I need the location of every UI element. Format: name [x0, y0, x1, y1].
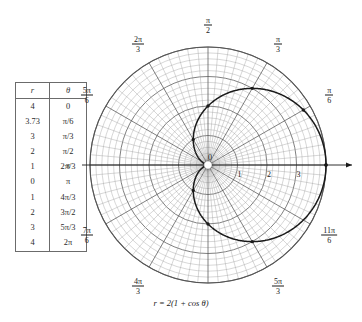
- polar-axis-arrowhead: [346, 162, 352, 167]
- radial-tick-label-2: 2: [267, 170, 271, 179]
- data-point: [192, 189, 195, 192]
- angle-label-denominator: 6: [325, 95, 333, 105]
- angle-label-numerator: 2π: [132, 34, 144, 43]
- angle-label-76: 7π6: [81, 226, 93, 245]
- data-point: [251, 240, 254, 243]
- angle-label-denominator: 6: [81, 95, 93, 105]
- angle-label-2: π2: [204, 16, 212, 35]
- angle-label-denominator: 6: [81, 235, 93, 245]
- angle-label-: π: [66, 161, 70, 170]
- data-point: [324, 163, 327, 166]
- angle-label-denominator: 3: [272, 286, 284, 296]
- angle-label-53: 5π3: [272, 277, 284, 296]
- angle-label-numerator: π: [325, 86, 333, 95]
- angle-label-numerator: 11π: [321, 226, 337, 235]
- angle-label-23: 2π3: [132, 34, 144, 53]
- pole-marker: [204, 161, 212, 169]
- angle-label-3: π3: [274, 34, 282, 53]
- angle-label-numerator: 5π: [272, 277, 284, 286]
- angle-label-text: π: [66, 161, 70, 170]
- radial-tick-label-3: 3: [297, 170, 301, 179]
- angle-label-denominator: 3: [132, 43, 144, 53]
- angle-label-43: 4π3: [132, 277, 144, 296]
- data-point: [206, 222, 209, 225]
- angle-label-numerator: π: [274, 34, 282, 43]
- radial-tick-label-1: 1: [238, 170, 242, 179]
- figure-container: r θ 403.73π/63π/32π/212π/30π14π/323π/235…: [0, 0, 362, 322]
- angle-label-numerator: π: [204, 16, 212, 25]
- grid-spoke-minor: [177, 165, 208, 279]
- angle-label-denominator: 3: [132, 286, 144, 296]
- grid-spoke-minor: [208, 165, 322, 196]
- figure-caption: r = 2(1 + cos θ): [153, 298, 208, 308]
- angle-label-denominator: 2: [204, 25, 212, 35]
- angle-label-numerator: 7π: [81, 226, 93, 235]
- polar-axis: [82, 162, 352, 167]
- grid-spoke-minor: [208, 134, 322, 165]
- data-point: [206, 104, 209, 107]
- angle-label-numerator: 4π: [132, 277, 144, 286]
- angle-label-6: π6: [325, 86, 333, 105]
- grid-spoke-minor: [208, 51, 239, 165]
- angle-label-116: 11π6: [321, 226, 337, 245]
- data-point: [251, 87, 254, 90]
- grid-spoke-minor: [94, 134, 208, 165]
- angle-label-numerator: 5π: [81, 86, 93, 95]
- radial-tick-label-0: 0: [208, 153, 212, 162]
- data-point: [302, 108, 305, 111]
- polar-plot: [0, 0, 362, 322]
- angle-label-denominator: 6: [321, 235, 337, 245]
- angle-label-denominator: 3: [274, 43, 282, 53]
- grid-spoke-minor: [177, 51, 208, 165]
- grid-spoke-minor: [94, 165, 208, 196]
- data-point: [192, 138, 195, 141]
- grid-spoke-minor: [208, 165, 239, 279]
- angle-label-56: 5π6: [81, 86, 93, 105]
